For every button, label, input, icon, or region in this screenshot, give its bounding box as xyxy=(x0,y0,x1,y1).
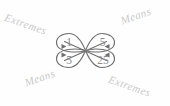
proportion-diagram-figure: 1 5 5 25 = Extremes Means Means Extremes xyxy=(0,0,170,106)
term-first: 1 xyxy=(66,36,72,48)
term-third: 5 xyxy=(66,54,72,66)
term-fourth: 25 xyxy=(97,54,109,66)
term-second: 5 xyxy=(100,36,106,48)
equals-sign: = xyxy=(82,45,88,57)
